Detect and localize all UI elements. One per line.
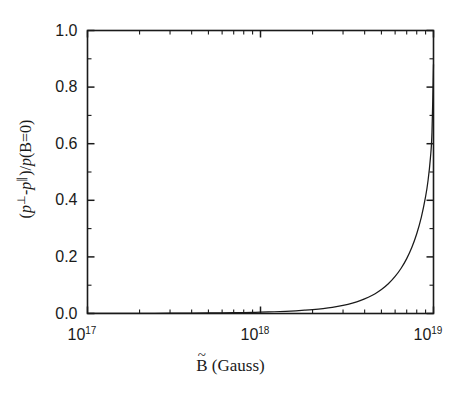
x-tick-exponent: 19 bbox=[431, 324, 442, 335]
ylabel-p-perp: p bbox=[17, 205, 34, 213]
x-tick-label: 1017 bbox=[68, 326, 97, 344]
x-tick-mantissa: 10 bbox=[68, 326, 86, 343]
x-tick-label: 1019 bbox=[414, 326, 443, 344]
y-tick-label: 0.6 bbox=[36, 135, 78, 153]
x-tick-exponent: 17 bbox=[85, 324, 96, 335]
axes-frame bbox=[88, 31, 434, 314]
x-tick-mantissa: 10 bbox=[241, 326, 259, 343]
ylabel-open-paren: ( bbox=[17, 213, 34, 218]
x-axis-label: ~B (Gauss) bbox=[0, 356, 461, 376]
y-tick-label: 1.0 bbox=[36, 22, 78, 40]
ylabel-parallel-superscript: ∥ bbox=[15, 176, 27, 182]
x-axis-symbol: ~B bbox=[196, 356, 207, 376]
figure-container: 0.00.20.40.60.81.0 101710181019 ~B (Gaus… bbox=[0, 0, 461, 398]
ylabel-p-zero: p bbox=[17, 158, 34, 166]
y-tick-label: 0.8 bbox=[36, 78, 78, 96]
ylabel-b-equals-zero: (B=0) bbox=[17, 120, 34, 158]
tilde-accent: ~ bbox=[196, 348, 207, 363]
y-tick-label: 0.0 bbox=[36, 305, 78, 323]
y-axis-label: (p⊥-p∥)/p(B=0) bbox=[17, 59, 35, 279]
x-axis-ticks bbox=[88, 31, 434, 314]
ylabel-minus: - bbox=[17, 190, 34, 195]
y-tick-label: 0.4 bbox=[36, 191, 78, 209]
x-tick-label: 1018 bbox=[241, 326, 270, 344]
x-tick-exponent: 18 bbox=[258, 324, 269, 335]
y-axis-ticks bbox=[88, 31, 434, 314]
data-curve bbox=[88, 64, 434, 313]
ylabel-p-parallel: p bbox=[17, 182, 34, 190]
data-series-group bbox=[88, 64, 434, 313]
plot-frame bbox=[88, 31, 434, 314]
ylabel-perp-superscript: ⊥ bbox=[15, 195, 27, 205]
y-tick-label: 0.2 bbox=[36, 248, 78, 266]
x-axis-unit: (Gauss) bbox=[208, 356, 265, 375]
x-tick-mantissa: 10 bbox=[414, 326, 432, 343]
ylabel-close-divide: )/ bbox=[17, 166, 34, 176]
